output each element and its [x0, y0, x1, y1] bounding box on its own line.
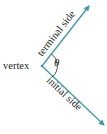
angle-diagram: θ vertex terminal side initial side — [0, 0, 107, 134]
angle-theta-label: θ — [54, 56, 60, 68]
vertex-label: vertex — [3, 60, 30, 71]
initial-side-label: initial side — [45, 74, 85, 112]
terminal-side-label: terminal side — [35, 8, 77, 58]
vertex-point — [41, 65, 44, 68]
